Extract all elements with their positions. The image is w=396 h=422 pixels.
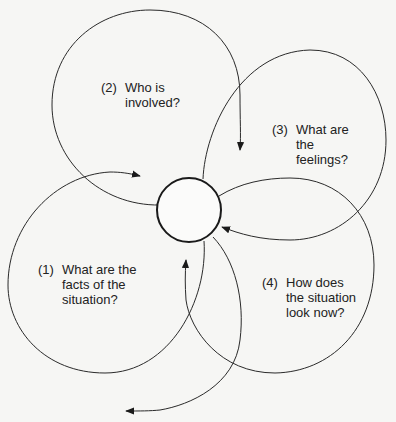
loop-1-text: What are the facts of the situation? <box>62 262 136 307</box>
loop-1-number: (1) <box>38 262 54 277</box>
diagram-canvas <box>0 0 396 422</box>
loop-3-label: (3) What are the feelings? <box>272 122 349 167</box>
center-circle <box>157 178 221 242</box>
loop-2-number: (2) <box>101 80 117 95</box>
loop-2-text: Who is involved? <box>125 80 180 110</box>
loop-1-label: (1) What are the facts of the situation? <box>38 262 136 307</box>
loop-3-text: What are the feelings? <box>296 122 349 167</box>
loop-4-label: (4) How does the situation look now? <box>262 275 356 320</box>
loop-4-text: How does the situation look now? <box>286 275 356 320</box>
loop-3-number: (3) <box>272 122 288 137</box>
loop-4-number: (4) <box>262 275 278 290</box>
loop-2-label: (2) Who is involved? <box>101 80 180 110</box>
